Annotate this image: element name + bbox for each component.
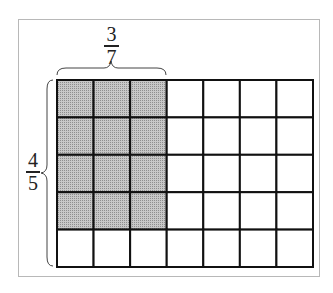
shaded-cell	[94, 117, 131, 154]
left-numerator: 4	[28, 149, 38, 171]
shaded-cell	[57, 192, 94, 229]
grid-cell	[167, 117, 204, 154]
left-brace-icon	[41, 80, 53, 266]
grid-cell	[240, 192, 277, 229]
grid-cell	[167, 80, 204, 117]
grid-cell	[240, 155, 277, 192]
shaded-cell	[94, 192, 131, 229]
shaded-cell	[130, 117, 167, 154]
shaded-cell	[130, 192, 167, 229]
top-numerator: 3	[107, 23, 117, 45]
shaded-cell	[57, 80, 94, 117]
grid-cell	[203, 117, 240, 154]
shaded-cell	[94, 155, 131, 192]
grid-cell	[130, 230, 167, 267]
grid-cell	[203, 80, 240, 117]
grid-cell	[276, 230, 313, 267]
shaded-cell	[130, 155, 167, 192]
grid-cell	[203, 155, 240, 192]
grid-cell	[203, 192, 240, 229]
shaded-cell	[94, 80, 131, 117]
grid-cell	[276, 192, 313, 229]
grid-cell	[276, 117, 313, 154]
grid-cell	[240, 80, 277, 117]
grid-cell	[57, 230, 94, 267]
grid-cell	[276, 80, 313, 117]
shaded-cell	[130, 80, 167, 117]
area-model-grid	[0, 0, 333, 293]
left-fraction-label: 4 5	[26, 151, 40, 193]
shaded-cell	[57, 117, 94, 154]
shaded-cell	[57, 155, 94, 192]
top-fraction-label: 3 7	[104, 25, 119, 67]
grid-cell	[240, 230, 277, 267]
left-denominator: 5	[28, 172, 38, 194]
grid-cell	[167, 192, 204, 229]
grid-cell	[167, 230, 204, 267]
grid-cell	[240, 117, 277, 154]
grid-cell	[203, 230, 240, 267]
grid-cell	[167, 155, 204, 192]
grid-cell	[94, 230, 131, 267]
grid-cell	[276, 155, 313, 192]
top-denominator: 7	[107, 46, 117, 68]
